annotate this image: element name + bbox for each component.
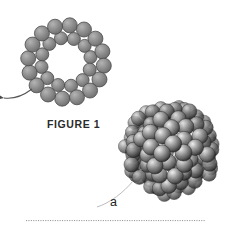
schematic-node-group [21, 18, 112, 106]
figure-caption: FIGURE 1 [47, 118, 100, 130]
separator-dot [84, 220, 85, 221]
separator-dot [148, 220, 149, 221]
separator-dot [153, 220, 154, 221]
separator-dot [79, 220, 80, 221]
separator-dot [93, 220, 94, 221]
dotted-separator [26, 220, 205, 221]
separator-dot [69, 220, 70, 221]
schematic-node [83, 83, 98, 98]
schematic-node [21, 51, 36, 66]
separator-dot [139, 220, 140, 221]
separator-dot [43, 220, 44, 221]
separator-dot [45, 220, 46, 221]
separator-dot [52, 220, 53, 221]
separator-dot [81, 220, 82, 221]
schematic-leader-line [4, 89, 32, 98]
separator-dot [117, 220, 118, 221]
separator-dot [132, 220, 133, 221]
schematic-node [69, 90, 84, 105]
separator-dot [60, 220, 61, 221]
separator-dot [184, 220, 185, 221]
separator-dot [67, 220, 68, 221]
separator-dot [112, 220, 113, 221]
separator-dot [192, 220, 193, 221]
separator-dot [165, 220, 166, 221]
separator-dot [100, 220, 101, 221]
separator-dot [86, 220, 87, 221]
cluster-sphere [124, 157, 139, 172]
schematic-node [62, 18, 77, 33]
figure-page: FIGURE 1 a [0, 0, 228, 228]
separator-dot [88, 220, 89, 221]
space-filling-cluster [118, 100, 219, 201]
separator-dot [122, 220, 123, 221]
separator-dot [189, 220, 190, 221]
separator-dot [28, 220, 29, 221]
separator-dot [151, 220, 152, 221]
separator-dot [172, 220, 173, 221]
separator-dot [187, 220, 188, 221]
figure-canvas [0, 0, 228, 228]
separator-dot [199, 220, 200, 221]
separator-dot [136, 220, 137, 221]
separator-dot [62, 220, 63, 221]
separator-dot [31, 220, 32, 221]
cluster-sphere [154, 145, 171, 162]
separator-dot [115, 220, 116, 221]
separator-dot [74, 220, 75, 221]
separator-dot [127, 220, 128, 221]
schematic-node [55, 91, 70, 106]
separator-dot [168, 220, 169, 221]
separator-dot [182, 220, 183, 221]
separator-dot [163, 220, 164, 221]
separator-dot [72, 220, 73, 221]
separator-dot [124, 220, 125, 221]
separator-dot [129, 220, 130, 221]
separator-dot [105, 220, 106, 221]
separator-dot [144, 220, 145, 221]
ring-schematic-diagram [4, 18, 111, 106]
separator-dot [55, 220, 56, 221]
schematic-node [48, 19, 63, 34]
separator-dot [76, 220, 77, 221]
separator-dot [146, 220, 147, 221]
separator-dot [177, 220, 178, 221]
schematic-node [95, 44, 110, 59]
separator-dot [194, 220, 195, 221]
schematic-node [96, 58, 111, 73]
separator-dot [156, 220, 157, 221]
separator-dot [204, 220, 205, 221]
separator-dot [103, 220, 104, 221]
separator-dot [160, 220, 161, 221]
separator-dot [96, 220, 97, 221]
separator-dot [201, 220, 202, 221]
separator-dot [57, 220, 58, 221]
separator-dot [98, 220, 99, 221]
schematic-node [22, 65, 37, 80]
separator-dot [33, 220, 34, 221]
separator-dot [40, 220, 41, 221]
separator-dot [134, 220, 135, 221]
separator-dot [38, 220, 39, 221]
separator-dot [141, 220, 142, 221]
separator-dot [120, 220, 121, 221]
separator-dot [158, 220, 159, 221]
part-label-a: a [110, 195, 117, 209]
separator-dot [175, 220, 176, 221]
separator-dot [170, 220, 171, 221]
separator-dot [110, 220, 111, 221]
separator-dot [64, 220, 65, 221]
schematic-node [34, 26, 49, 41]
separator-dot [36, 220, 37, 221]
separator-dot [91, 220, 92, 221]
separator-dot [26, 220, 27, 221]
separator-dot [180, 220, 181, 221]
separator-dot [108, 220, 109, 221]
separator-dot [48, 220, 49, 221]
separator-dot [50, 220, 51, 221]
separator-dot [196, 220, 197, 221]
